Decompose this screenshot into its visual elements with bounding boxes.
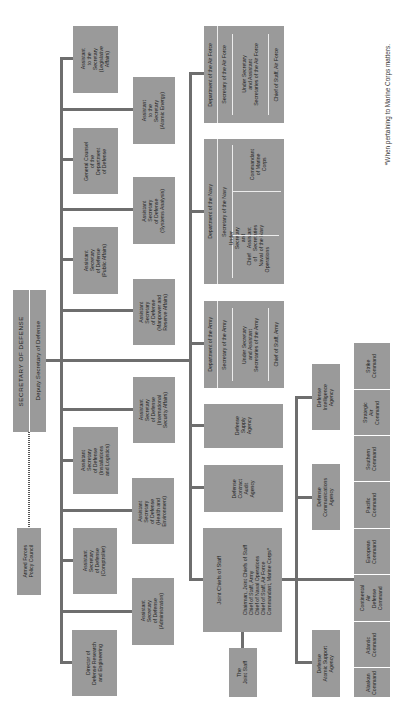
ddre-box[interactable]: Director of Defense Research and Enginee…	[72, 630, 117, 696]
policy-council-dotted-line	[28, 432, 30, 528]
army-chief-of-staff: Chief of Staff, Army	[274, 322, 280, 367]
army-under-secretaries: Under Secretary and Assistant Secretarie…	[242, 318, 260, 372]
navy-commandant-marine-corps: Commandant of Marine Corps	[250, 149, 268, 180]
administration-box[interactable]: Assistant Secretary of Defense (Administ…	[132, 578, 174, 645]
departments-trunk-line	[189, 72, 192, 581]
navy-cno-panel: Chief of Naval Operations	[233, 236, 284, 284]
air-force-title: Department of the Air Force	[208, 43, 214, 107]
administration-label: Assistant Secretary of Defense (Administ…	[141, 593, 165, 629]
branch-dcaa	[189, 486, 204, 489]
command-strike[interactable]: Strike Command	[354, 343, 390, 389]
branch-dasa	[295, 661, 312, 664]
public-affairs-label: Assistant Secretary of Defense (Public A…	[84, 244, 108, 277]
army-title: Department of the Army	[208, 317, 214, 372]
deputy-secretary-box[interactable]: Deputy Secretary of Defense	[30, 290, 46, 432]
branch-isa	[60, 408, 133, 411]
branch-administration	[60, 610, 132, 613]
command-european-label: European Command	[366, 540, 378, 564]
agencies-trunk-line	[295, 396, 298, 664]
air-force-chief-of-staff: Chief of Staff, Air Force	[274, 48, 280, 102]
footnote-text: *When pertaining to Marine Corps matters…	[384, 44, 391, 165]
systems-analysis-box[interactable]: Assistant Secretary of Defense (Systems …	[133, 177, 175, 244]
defense-communications-agency-box[interactable]: Defense Communications Agency	[312, 464, 340, 530]
health-environment-box[interactable]: Assistant Secretary of Defense (Health a…	[132, 478, 174, 544]
general-counsel-box[interactable]: General Counsel of the Department of Def…	[73, 128, 118, 194]
general-counsel-label: General Counsel of the Department of Def…	[84, 142, 108, 181]
department-air-force-box[interactable]: Department of the Air Force Secretary of…	[204, 26, 284, 123]
atomic-energy-box[interactable]: Assistant to the Secretary (Atomic Energ…	[133, 77, 175, 144]
command-strategic-air[interactable]: Strategic Air Command	[354, 390, 390, 435]
command-continental-air-defense[interactable]: Continental Air Defense Command	[354, 575, 390, 621]
command-atlantic-label: Atlantic Command	[366, 633, 378, 657]
branch-legislative	[60, 57, 73, 60]
branch-manpower	[60, 309, 133, 312]
installations-logistics-box[interactable]: Assistant Secretary of Defense (Installa…	[73, 427, 118, 494]
navy-title: Department of the Navy	[208, 184, 214, 239]
defense-communications-agency-label: Defense Communications Agency	[317, 478, 335, 517]
armed-forces-policy-council-box[interactable]: Armed Forces Policy Council	[17, 528, 41, 595]
jcs-title: Joint Chiefs of Staff	[216, 556, 222, 604]
branch-dia	[295, 396, 312, 399]
footnote: *When pertaining to Marine Corps matters…	[382, 28, 394, 182]
health-environment-label: Assistant Secretary of Defense (Health a…	[138, 496, 168, 527]
command-pacific[interactable]: Pacific Command	[354, 482, 390, 528]
systems-analysis-label: Assistant Secretary of Defense (Systems …	[142, 189, 166, 233]
branch-army	[189, 342, 204, 345]
defense-intelligence-agency-label: Defense Intelligence Agency	[317, 384, 335, 410]
legislative-affairs-box[interactable]: Assistant to the Secretary (Legislative …	[73, 26, 118, 93]
air-force-secretary: Secretary of the Air Force	[222, 45, 228, 104]
international-security-affairs-box[interactable]: Assistant Secretary of Defense (Internat…	[133, 377, 175, 443]
defense-atomic-support-agency-box[interactable]: Defense Atomic Support Agency	[312, 630, 340, 697]
command-strike-label: Strike Command	[366, 354, 378, 378]
branch-atomic-energy	[60, 108, 133, 111]
command-atlantic[interactable]: Atlantic Command	[354, 622, 390, 667]
navy-chief-naval-operations: Chief of Naval Operations	[247, 247, 271, 272]
command-southern-label: Southern Command	[366, 447, 378, 471]
command-alaskan-label: Alaskan Command	[366, 671, 378, 695]
command-strategic-air-label: Strategic Air Command	[363, 401, 381, 425]
command-alaskan[interactable]: Alaskan Command	[354, 668, 390, 697]
comptroller-box[interactable]: Assistant Secretary of Defense (Comptrol…	[73, 528, 117, 594]
comptroller-label: Assistant Secretary of Defense (Comptrol…	[83, 546, 107, 576]
defense-atomic-support-agency-label: Defense Atomic Support Agency	[317, 646, 335, 681]
public-affairs-box[interactable]: Assistant Secretary of Defense (Public A…	[73, 227, 118, 294]
legislative-affairs-label: Assistant to the Secretary (Legislative …	[81, 46, 111, 72]
ddre-label: Director of Defense Research and Enginee…	[86, 642, 104, 685]
branch-jcs	[189, 578, 203, 581]
joint-staff-box[interactable]: The Joint Staff	[229, 648, 257, 697]
joint-staff-label: The Joint Staff	[237, 661, 249, 684]
command-pacific-label: Pacific Command	[366, 493, 378, 517]
command-southern[interactable]: Southern Command	[354, 436, 390, 481]
divider	[233, 235, 279, 236]
defense-supply-agency-box[interactable]: Defense Supply Agency	[204, 404, 283, 448]
jcs-to-joint-staff-line	[241, 632, 244, 648]
branch-installations	[60, 459, 73, 462]
manpower-reserve-affairs-box[interactable]: Assistant Secretary of Defense (Manpower…	[133, 279, 175, 345]
branch-dca	[295, 496, 312, 499]
armed-forces-policy-council-label: Armed Forces Policy Council	[23, 545, 35, 578]
defense-intelligence-agency-box[interactable]: Defense Intelligence Agency	[312, 364, 340, 430]
branch-ddre	[60, 661, 72, 664]
air-force-under-secretaries: Under Secretary and Assistant Secretarie…	[242, 43, 260, 106]
branch-general-counsel	[60, 158, 73, 161]
atomic-energy-label: Assistant to the Secretary (Atomic Energ…	[142, 92, 166, 129]
army-secretary: Secretary of the Army	[222, 320, 228, 370]
deputy-secretary-title: Deputy Secretary of Defense	[34, 321, 41, 400]
branch-navy	[189, 210, 204, 213]
command-european[interactable]: European Command	[354, 529, 390, 574]
navy-secretary: Secretary of the Navy	[222, 187, 228, 237]
secdef-main-line	[46, 359, 192, 362]
manpower-reserve-affairs-label: Assistant Secretary of Defense (Manpower…	[139, 294, 169, 331]
jcs-members: Chairman, Joint Chiefs of Staff Chief of…	[243, 545, 273, 615]
secretary-of-defense-box[interactable]: SECRETARY OF DEFENSE	[13, 290, 29, 432]
jcs-to-commands-line	[281, 578, 354, 581]
defense-supply-agency-label: Defense Supply Agency	[235, 416, 253, 435]
department-army-box[interactable]: Department of the Army Secretary of the …	[204, 301, 284, 388]
branch-air-force	[189, 72, 204, 75]
joint-chiefs-of-staff-box[interactable]: Joint Chiefs of Staff Chairman, Joint Ch…	[203, 528, 282, 632]
defense-contract-audit-agency-box[interactable]: Defense Contract Audit Agency	[204, 465, 283, 512]
international-security-affairs-label: Assistant Secretary of Defense (Internat…	[139, 392, 169, 428]
secretary-of-defense-title: SECRETARY OF DEFENSE	[17, 316, 24, 406]
branch-public-affairs	[60, 258, 73, 261]
branch-systems-analysis	[60, 208, 133, 211]
